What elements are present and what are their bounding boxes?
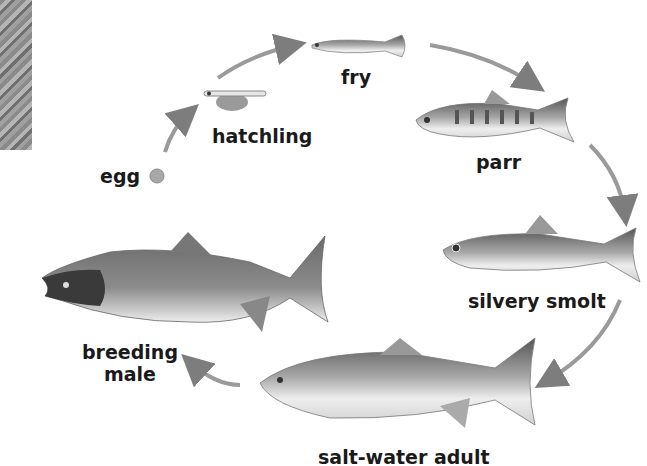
life-cycle-diagram bbox=[0, 0, 647, 466]
egg-icon bbox=[150, 169, 164, 183]
stage-label-salt-water-adult: salt-water adult bbox=[318, 446, 489, 466]
arrow-smolt-to-adult bbox=[545, 300, 620, 382]
hatchling-fish-icon bbox=[204, 91, 266, 111]
fry-fish-icon bbox=[312, 35, 405, 57]
stage-label-egg: egg bbox=[100, 165, 140, 187]
arrow-egg-to-hatchling bbox=[165, 112, 190, 152]
arrow-parr-to-smolt bbox=[590, 145, 625, 215]
parr-fish-icon bbox=[416, 90, 574, 142]
stage-label-fry: fry bbox=[341, 66, 371, 88]
stage-label-silvery-smolt: silvery smolt bbox=[468, 290, 606, 312]
breeding-label-line2: male bbox=[82, 363, 178, 385]
breeding-male-fish-icon bbox=[42, 232, 328, 332]
breeding-label-line1: breeding bbox=[82, 341, 178, 363]
silvery-smolt-fish-icon bbox=[443, 215, 640, 282]
arrow-hatchling-to-fry bbox=[218, 45, 295, 78]
stage-label-hatchling: hatchling bbox=[212, 125, 312, 147]
arrow-fry-to-parr bbox=[430, 45, 535, 85]
stage-label-parr: parr bbox=[476, 151, 521, 173]
stage-label-breeding-male: breeding male bbox=[82, 341, 178, 385]
salt-water-adult-fish-icon bbox=[260, 338, 535, 428]
arrow-adult-to-breeding bbox=[190, 362, 240, 385]
